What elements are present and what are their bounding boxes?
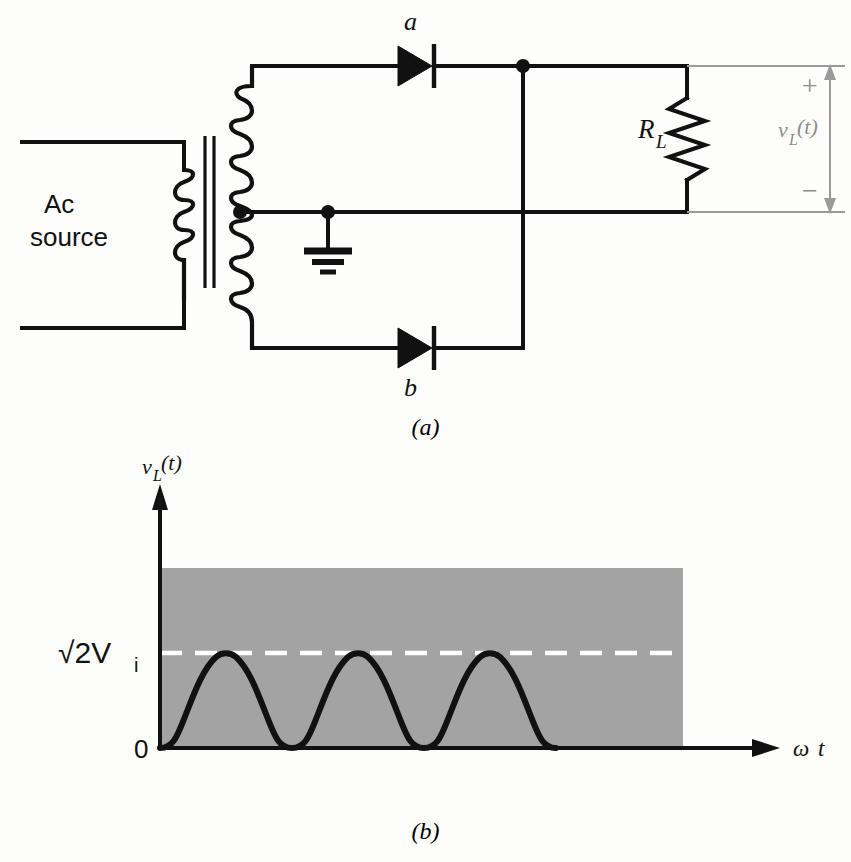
circuit-diagram-panel-a: Ac source a [0, 0, 851, 430]
y-tick-zero-label: 0 [134, 734, 148, 764]
panel-b-caption: (b) [412, 818, 440, 844]
transformer-primary-winding [175, 170, 193, 300]
resistor-zigzag-icon [669, 98, 705, 180]
diode-b-label: b [404, 373, 417, 402]
output-voltage-label-arg: (t) [797, 114, 818, 139]
panel-a-caption: (a) [412, 414, 440, 440]
diode-b-triangle-icon [398, 328, 432, 368]
y-axis-label-arg: (t) [161, 450, 182, 475]
diode-b: b [398, 326, 434, 402]
ac-source-label-line1: Ac [44, 189, 74, 219]
panel-a-caption-wrap: (a) [0, 414, 851, 441]
diode-a-label: a [404, 7, 417, 36]
diode-a: a [398, 7, 434, 88]
figure-root: Ac source a [0, 0, 851, 862]
y-axis-arrowhead-icon [152, 484, 168, 510]
resistor-label-subscript: L [655, 131, 667, 152]
primary-coil-loops [175, 170, 193, 300]
y-tick-peak-label: √2V [58, 636, 111, 669]
resistor-label: R [637, 114, 655, 144]
polarity-plus-label: + [800, 70, 819, 101]
junction-dot-center-tap [233, 205, 247, 219]
output-voltage-label: v [778, 117, 788, 142]
y-axis-label-group: v L (t) [142, 450, 182, 484]
output-voltage-annotation: + − v L (t) [687, 64, 845, 214]
x-axis-arrowhead-icon [752, 739, 780, 757]
polarity-minus-label: − [800, 175, 819, 206]
y-axis-label-main: v [142, 454, 152, 479]
y-tick-peak-subscript: i [134, 654, 138, 676]
ac-source-label-line2: source [30, 222, 108, 252]
diode-a-triangle-icon [398, 46, 432, 86]
transformer-core [205, 136, 214, 288]
junction-dot-top-node [516, 59, 530, 73]
ground-symbol [304, 212, 352, 272]
load-resistor: R L [637, 66, 705, 212]
waveform-plot-panel-b: v L (t) ω t √2V i 0 [0, 448, 851, 838]
panel-b-caption-wrap: (b) [0, 818, 851, 845]
x-axis-label-omega: ω [793, 736, 809, 761]
x-axis-label-t: t [818, 736, 825, 761]
ac-source-block: Ac source [22, 142, 184, 328]
junction-dot-ground [321, 205, 335, 219]
x-axis-label-group: ω t [793, 736, 825, 761]
y-tick-peak-group: √2V i [58, 636, 138, 676]
